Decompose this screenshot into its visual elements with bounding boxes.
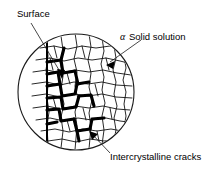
surface-label: Surface (17, 8, 50, 19)
intercrystalline-cracks-label: Intercrystalline cracks (110, 151, 202, 162)
alpha-symbol-label: α (120, 31, 126, 42)
microstructure-diagram: Surface α Solid solution Intercrystallin… (0, 0, 214, 172)
alpha-solid-solution-label: Solid solution (129, 31, 186, 42)
figure-container: Surface α Solid solution Intercrystallin… (0, 0, 214, 172)
